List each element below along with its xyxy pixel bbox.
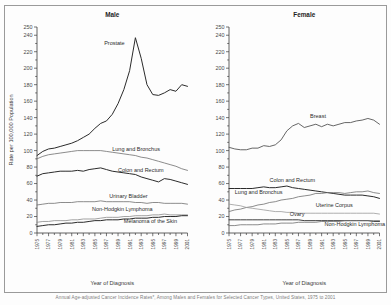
x-tick-label: 1979 — [250, 239, 255, 250]
y-tick-label: 250 — [24, 24, 33, 30]
chart-svg-female: Female0204060801001201401601802002202402… — [196, 5, 388, 293]
x-tick-label: 1989 — [307, 239, 312, 250]
y-tick-label: 220 — [215, 49, 224, 55]
x-tick-label: 1981 — [261, 239, 266, 250]
series-label-lung-and-bronchus: Lung and Bronchus — [112, 146, 160, 152]
series-label-prostate: Prostate — [104, 40, 124, 46]
y-tick-label: 180 — [215, 82, 224, 88]
y-tick-label: 240 — [24, 32, 33, 38]
y-tick-label: 220 — [24, 49, 33, 55]
series-label-non-hodgkin-lymphoma: Non-Hodgkin Lymphoma — [324, 221, 386, 227]
x-tick-label: 1987 — [296, 239, 301, 250]
series-label-melanoma-of-the-skin: Melanoma of the Skin — [124, 218, 177, 224]
x-tick-label: 1991 — [319, 239, 324, 250]
x-tick-label: 1993 — [139, 239, 144, 250]
y-tick-label: 160 — [24, 98, 33, 104]
panels-row: Male020406080100120140160180200220240250… — [4, 5, 387, 293]
x-tick-label: 1977 — [46, 239, 51, 250]
figure-caption: Annual Age-adjusted Cancer Incidence Rat… — [0, 295, 391, 300]
x-axis-title: Year of Diagnosis — [90, 280, 134, 286]
y-tick-label: 0 — [30, 230, 33, 236]
series-line-prostate — [37, 38, 188, 156]
x-tick-label: 1987 — [104, 239, 109, 250]
x-tick-label: 1975 — [226, 239, 231, 250]
series-label-non-hodgkin-lymphoma: Non-Hodgkin Lymphoma — [92, 206, 154, 212]
y-tick-label: 140 — [24, 115, 33, 121]
x-axis-title: Year of Diagnosis — [282, 280, 326, 286]
x-tick-label: 1977 — [238, 239, 243, 250]
series-line-lung-and-bronchus — [37, 151, 188, 171]
y-tick-label: 140 — [215, 115, 224, 121]
y-tick-label: 20 — [27, 213, 33, 219]
y-tick-label: 160 — [215, 98, 224, 104]
x-tick-label: 1991 — [128, 239, 133, 250]
y-tick-label: 120 — [215, 131, 224, 137]
x-tick-label: 1985 — [93, 239, 98, 250]
x-tick-label: 1999 — [365, 239, 370, 250]
y-tick-label: 60 — [27, 180, 33, 186]
series-line-colon-and-rectum — [37, 168, 188, 184]
x-tick-label: 1981 — [70, 239, 75, 250]
series-label-colon-and-rectum: Colon and Rectum — [269, 177, 315, 183]
x-tick-label: 2001 — [377, 239, 382, 250]
x-tick-label: 1997 — [354, 239, 359, 250]
y-tick-label: 100 — [24, 148, 33, 154]
x-tick-label: 1993 — [331, 239, 336, 250]
x-tick-label: 1983 — [81, 239, 86, 250]
panel-title-female: Female — [293, 11, 315, 18]
x-tick-label: 1989 — [116, 239, 121, 250]
chart-svg-male: Male020406080100120140160180200220240250… — [4, 5, 196, 293]
y-tick-label: 180 — [24, 82, 33, 88]
series-label-urinary-bladder: Urinary Bladder — [109, 193, 147, 199]
y-tick-label: 0 — [221, 230, 224, 236]
y-tick-label: 200 — [215, 65, 224, 71]
series-label-lung-and-bronchus: Lung and Bronchus — [234, 189, 282, 195]
x-tick-label: 1999 — [174, 239, 179, 250]
y-tick-label: 250 — [215, 24, 224, 30]
y-tick-label: 120 — [24, 131, 33, 137]
y-tick-label: 20 — [218, 213, 224, 219]
y-tick-label: 200 — [24, 65, 33, 71]
y-tick-label: 80 — [218, 164, 224, 170]
x-tick-label: 1997 — [162, 239, 167, 250]
x-tick-label: 1985 — [284, 239, 289, 250]
x-tick-label: 2001 — [185, 239, 190, 250]
y-tick-label: 100 — [215, 148, 224, 154]
figure-container: Male020406080100120140160180200220240250… — [0, 0, 391, 305]
series-label-ovary: Ovary — [289, 211, 304, 217]
y-tick-label: 240 — [215, 32, 224, 38]
series-label-breast: Breast — [310, 113, 326, 119]
x-tick-label: 1995 — [342, 239, 347, 250]
series-label-colon-and-rectum: Colon and Rectum — [118, 167, 164, 173]
y-tick-label: 80 — [27, 164, 33, 170]
y-tick-label: 60 — [218, 180, 224, 186]
x-tick-label: 1995 — [151, 239, 156, 250]
y-tick-label: 40 — [27, 197, 33, 203]
panel-female: Female0204060801001201401601802002202402… — [196, 5, 388, 293]
series-line-breast — [229, 118, 380, 149]
panel-male: Male020406080100120140160180200220240250… — [4, 5, 196, 293]
x-tick-label: 1983 — [273, 239, 278, 250]
y-axis-title: Rate per 100,000 Population — [8, 94, 14, 165]
series-line-urinary-bladder — [37, 201, 188, 205]
series-label-uterine-corpus: Uterine Corpus — [315, 202, 352, 208]
x-tick-label: 1979 — [58, 239, 63, 250]
x-tick-label: 1975 — [35, 239, 40, 250]
y-tick-label: 40 — [218, 197, 224, 203]
panel-title-male: Male — [105, 11, 120, 18]
